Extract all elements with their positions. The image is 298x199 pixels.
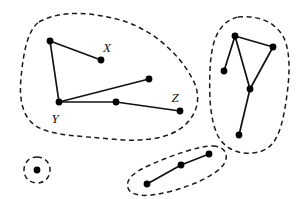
large-component-outline — [20, 14, 197, 141]
graph-canvas: XYZ — [0, 0, 298, 199]
vertex-bottom-right — [206, 151, 213, 158]
vertex-z — [177, 108, 184, 115]
label-z: Z — [171, 90, 179, 105]
vertex-labels-layer: XYZ — [51, 40, 179, 126]
label-y: Y — [51, 111, 60, 126]
edge-y-upperright — [59, 79, 149, 102]
edge-rightcenter-rightbottom — [239, 89, 250, 135]
edge-righttop-rightcenter — [235, 36, 250, 89]
vertex-x — [98, 57, 105, 64]
vertex-middle — [113, 99, 120, 106]
vertex-right-bottom — [236, 132, 243, 139]
vertex-top-left — [47, 38, 54, 45]
edge-topleft-y — [50, 41, 59, 102]
vertex-bottom-middle — [178, 162, 185, 169]
vertex-right-upper-right — [270, 44, 277, 51]
vertex-bottom-left — [144, 181, 151, 188]
vertex-right-top — [232, 33, 239, 40]
vertex-isolated — [34, 167, 41, 174]
edge-righttop-rightleft — [224, 36, 235, 71]
vertex-y — [56, 99, 63, 106]
edges-layer — [50, 36, 273, 184]
edge-bottomleft-bottommiddle — [147, 165, 181, 184]
vertex-right-left — [221, 68, 228, 75]
label-x: X — [102, 40, 112, 55]
edge-bottommiddle-bottomright — [181, 154, 209, 165]
edge-upperright-rightcenter — [250, 47, 273, 89]
graph-figure: XYZ — [0, 0, 298, 199]
edge-righttop-upperright — [235, 36, 273, 47]
vertex-right-center — [247, 86, 254, 93]
vertex-upper-right — [146, 76, 153, 83]
edge-topleft-x — [50, 41, 101, 60]
